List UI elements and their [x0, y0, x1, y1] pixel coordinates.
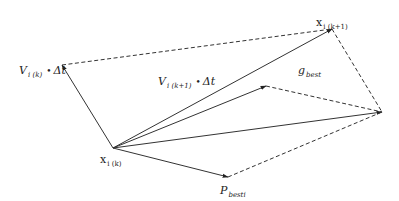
gbest-component-arrow	[113, 112, 382, 148]
pbest-arrow	[113, 148, 228, 177]
label-velocity-k: Vi (k)•Δt	[19, 61, 66, 79]
label-velocity-k1: Vi (k+1)•Δt	[158, 72, 215, 90]
velocity-vector-arrow	[62, 65, 113, 148]
new-position-arrow	[113, 29, 332, 148]
label-pbest: Pbesti	[220, 181, 246, 199]
pbest-component-arrow	[113, 86, 266, 148]
dashed-xk1-to-right	[332, 29, 382, 112]
pso-vector-diagram: Vi (k)•Δt Vi (k+1)•Δt xi (k+1) xi (k) gb…	[0, 0, 399, 201]
label-position-k: xi (k)	[100, 150, 121, 168]
label-position-k1: xi (k+1)	[316, 13, 348, 31]
dashed-mid-to-right	[266, 86, 382, 112]
dashed-vtip-to-xk1	[62, 29, 332, 65]
dashed-pbest-to-right	[228, 112, 382, 177]
label-gbest: gbest	[298, 61, 321, 79]
